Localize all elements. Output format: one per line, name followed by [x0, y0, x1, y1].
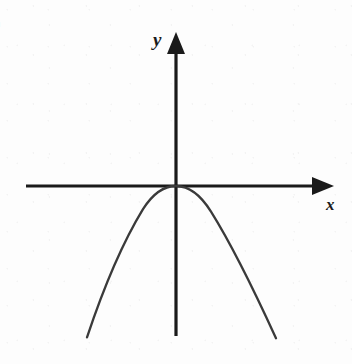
parabola-curve [87, 186, 276, 338]
parabola-figure: ) y x [0, 0, 352, 364]
y-axis-label: y [153, 30, 161, 49]
x-axis-label: x [326, 196, 335, 213]
y-axis-arrowhead-icon [167, 32, 185, 54]
coordinate-plot [0, 0, 352, 364]
x-axis-arrowhead-icon [312, 177, 334, 195]
